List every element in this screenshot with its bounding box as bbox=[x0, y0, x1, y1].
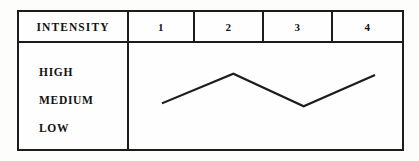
row-label-low: LOW bbox=[39, 122, 69, 134]
header-cell-intensity: INTENSITY bbox=[19, 12, 129, 41]
row-label-medium: MEDIUM bbox=[39, 94, 94, 106]
header-cell-column-3: 3 bbox=[264, 12, 333, 41]
header-cell-column-4: 4 bbox=[333, 12, 402, 41]
header-cell-column-1: 1 bbox=[129, 12, 195, 41]
row-label-cell: HIGH MEDIUM LOW bbox=[19, 43, 129, 149]
row-label-high: HIGH bbox=[39, 66, 73, 78]
plot-area bbox=[129, 43, 402, 149]
trend-line-path bbox=[163, 74, 374, 107]
intensity-table: INTENSITY 1 2 3 4 HIGH MEDIUM LOW bbox=[17, 10, 404, 151]
header-cell-column-2: 2 bbox=[195, 12, 264, 41]
table-header-row: INTENSITY 1 2 3 4 bbox=[19, 12, 402, 43]
intensity-trend-line-chart bbox=[129, 43, 402, 149]
page-background: INTENSITY 1 2 3 4 HIGH MEDIUM LOW bbox=[0, 0, 419, 161]
table-body-row: HIGH MEDIUM LOW bbox=[19, 43, 402, 149]
